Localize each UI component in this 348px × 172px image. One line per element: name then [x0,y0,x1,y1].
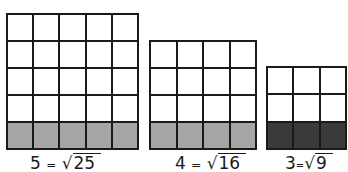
shaded-cell [113,123,137,148]
shaded-cell [268,123,292,148]
grid-cell [113,69,137,94]
grid-cell [294,95,318,120]
grid-cell [178,96,203,121]
grid-cell [87,96,111,121]
lhs: 4 [175,153,186,172]
radical-icon: √ [207,153,218,172]
radicand: 16 [218,153,247,172]
grid-cell [178,69,203,94]
grid-cell [204,42,229,67]
grid-cell [204,69,229,94]
label-sqrt-25: 5 = √25 [30,153,101,172]
grid-3x3 [266,66,347,150]
shaded-cell [231,123,256,148]
grid-cell [151,96,176,121]
equals-sign: = [296,160,304,171]
shaded-cell [294,123,318,148]
grid-cell [34,69,58,94]
grid-cell [178,42,203,67]
shaded-cell [178,123,203,148]
radicand: 9 [315,153,333,172]
radicand: 25 [73,153,102,172]
grid-cell [8,96,32,121]
grid-cell [113,42,137,67]
grid-cell [151,42,176,67]
grid-cell [60,15,84,40]
radical-icon: √ [304,153,315,172]
shaded-cell [321,123,345,148]
grid-cell [113,96,137,121]
radical-icon: √ [62,153,73,172]
grid-cell [268,68,292,93]
grid-cell [268,95,292,120]
grid-4x4 [149,40,257,150]
grid-cell [87,69,111,94]
grid-5x5 [6,13,139,150]
grid-cell [8,15,32,40]
grid-cell [60,96,84,121]
grid-cell [321,68,345,93]
grid-cell [113,15,137,40]
grid-cell [321,95,345,120]
equals-sign: = [46,158,56,172]
equals-sign: = [191,158,201,172]
label-sqrt-9: 3=√9 [285,153,333,172]
grid-cell [294,68,318,93]
grid-cell [151,69,176,94]
grid-cell [231,69,256,94]
grid-cell [34,42,58,67]
shaded-cell [34,123,58,148]
lhs: 3 [285,153,296,172]
label-sqrt-16: 4 = √16 [175,153,246,172]
grid-cell [87,15,111,40]
shaded-cell [204,123,229,148]
shaded-cell [60,123,84,148]
shaded-cell [87,123,111,148]
grid-cell [34,96,58,121]
grid-cell [8,69,32,94]
grid-cell [8,42,32,67]
grid-cell [60,69,84,94]
grid-cell [87,42,111,67]
grid-cell [231,96,256,121]
lhs: 5 [30,153,41,172]
grid-cell [60,42,84,67]
shaded-cell [151,123,176,148]
shaded-cell [8,123,32,148]
grid-cell [204,96,229,121]
grid-cell [231,42,256,67]
grid-cell [34,15,58,40]
